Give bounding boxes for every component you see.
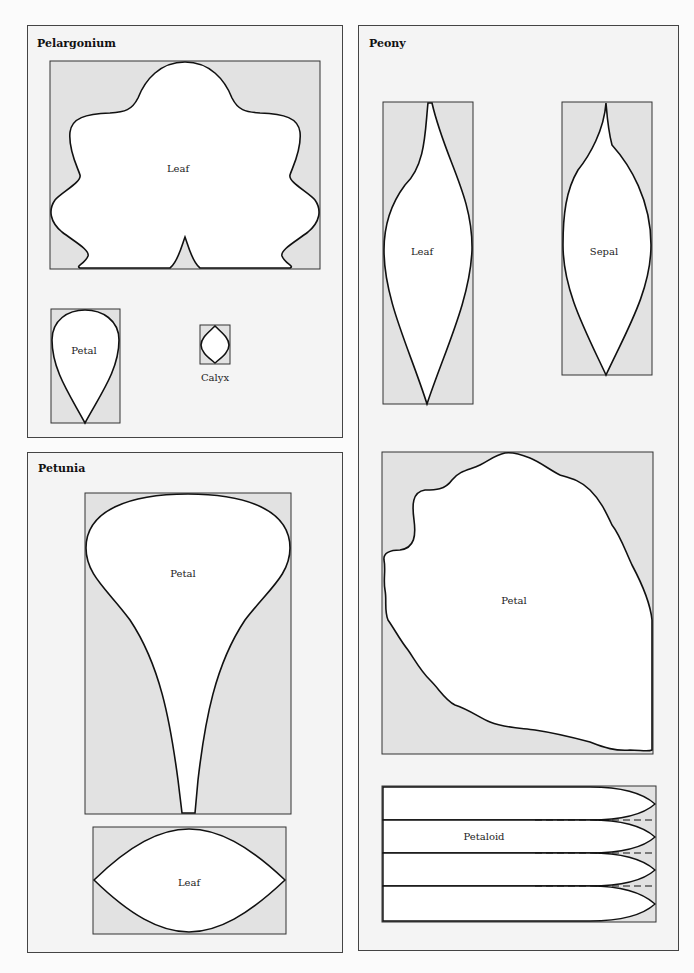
peony-petaloid-shapes: [383, 787, 655, 921]
label-petunia-leaf: Leaf: [178, 877, 202, 888]
label-pelargonium-petal: Petal: [71, 345, 96, 356]
label-pelargonium-calyx: Calyx: [201, 372, 229, 383]
pattern-diagram: Leaf Petal Calyx Petal Leaf Leaf Sepal P…: [0, 0, 694, 973]
label-petunia-petal: Petal: [170, 568, 195, 579]
label-peony-petaloid: Petaloid: [464, 831, 506, 842]
label-peony-petal: Petal: [501, 595, 526, 606]
label-peony-leaf: Leaf: [411, 246, 435, 257]
label-peony-sepal: Sepal: [590, 246, 618, 257]
label-pelargonium-leaf: Leaf: [167, 163, 191, 174]
